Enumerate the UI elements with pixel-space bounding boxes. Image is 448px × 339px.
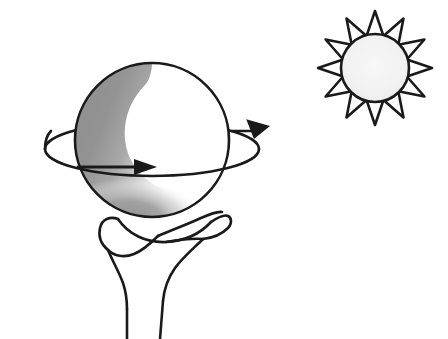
sun-disk <box>341 34 409 102</box>
scene-svg <box>0 0 448 339</box>
illustration-canvas: Hand holding rotating Earth globe with S… <box>0 0 448 339</box>
